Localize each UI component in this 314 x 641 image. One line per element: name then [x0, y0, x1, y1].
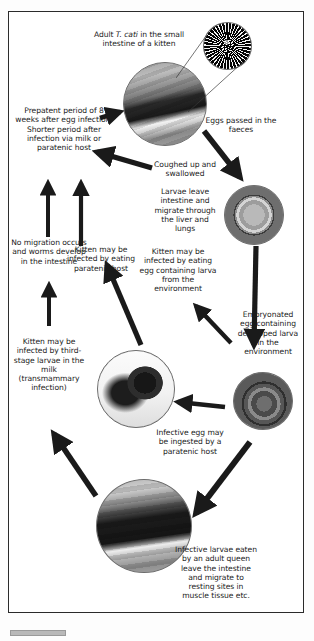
footer-tag-bar — [10, 630, 66, 636]
caption-embryonated-egg: Embryonated egg containing developed lar… — [236, 310, 300, 356]
caption-eggs-passed: Eggs passed in the faeces — [205, 116, 277, 135]
embryonated-egg-image — [234, 373, 292, 429]
figure-canvas: Adult T. cati in the small intestine of … — [0, 0, 314, 641]
photo-worm-mass — [203, 22, 252, 70]
photo-embryonated-egg — [233, 372, 293, 430]
kitten-top-image — [124, 63, 206, 145]
caption-adult-worm: Adult T. cati in the small intestine of … — [78, 30, 200, 49]
caption-infective-larvae: Infective larvae eaten by an adult queen… — [175, 545, 257, 601]
caption-eat-egg: Kitten may be infected by eating egg con… — [139, 247, 217, 293]
caption-adult-worm-text: Adult T. cati in the small intestine of … — [94, 30, 184, 48]
photo-unembryonated-egg — [224, 185, 284, 245]
photo-kitten-top — [123, 62, 207, 146]
caption-larvae-migrate: Larvae leave intestine and migrate throu… — [152, 187, 218, 233]
caption-prepatent: Prepatent period of 8 weeks after egg in… — [12, 106, 116, 152]
caption-coughed: Coughed up and swallowed — [151, 160, 219, 179]
mouse-image — [98, 351, 174, 427]
worm-mass-image — [204, 23, 251, 69]
caption-infective-egg: Infective egg may be ingested by a parat… — [153, 428, 227, 456]
unembryonated-egg-image — [225, 186, 283, 244]
caption-eat-paratenic: Kitten may be infected by eating paraten… — [66, 245, 136, 273]
caption-transmammary: Kitten may be infected by third-stage la… — [10, 337, 88, 393]
photo-mouse — [97, 350, 175, 428]
